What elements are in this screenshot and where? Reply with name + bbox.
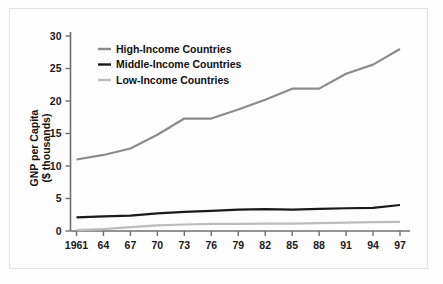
plot-area: GNP per Capita ($ thousands) 05101520253… [0, 0, 443, 284]
series-line [77, 222, 401, 230]
x-tick-label: 1961 [65, 239, 89, 251]
y-axis-title: GNP per Capita ($ thousands) [28, 109, 52, 186]
x-tick-label: 82 [259, 239, 271, 251]
y-axis-title-line1: GNP per Capita [28, 109, 40, 186]
y-tick-label: 10 [50, 160, 62, 172]
y-tick-label: 0 [56, 225, 62, 237]
y-tick-label: 15 [50, 127, 62, 139]
x-tick-label: 70 [152, 239, 164, 251]
line-chart-svg: GNP per Capita ($ thousands) 05101520253… [0, 0, 443, 284]
x-tick-label: 88 [313, 239, 325, 251]
x-axis-ticks: 1961646770737679828588919497 [65, 231, 406, 251]
legend-label: Middle-Income Countries [116, 58, 242, 70]
x-tick-label: 76 [205, 239, 217, 251]
series-line [77, 205, 401, 217]
y-tick-label: 25 [50, 62, 62, 74]
y-tick-label: 5 [56, 192, 62, 204]
y-axis-ticks: 051015202530 [50, 30, 71, 237]
x-tick-label: 79 [232, 239, 244, 251]
legend-label: Low-Income Countries [116, 74, 229, 86]
x-tick-label: 73 [178, 239, 190, 251]
x-tick-label: 94 [367, 239, 379, 251]
chart-legend: High-Income CountriesMiddle-Income Count… [98, 43, 242, 86]
x-tick-label: 91 [340, 239, 352, 251]
x-tick-label: 97 [394, 239, 406, 251]
legend-label: High-Income Countries [116, 43, 232, 55]
x-tick-label: 85 [286, 239, 298, 251]
x-tick-label: 67 [125, 239, 137, 251]
y-axis-title-line2: ($ thousands) [40, 114, 52, 183]
y-tick-label: 30 [50, 30, 62, 42]
x-tick-label: 64 [98, 239, 110, 251]
y-tick-label: 20 [50, 95, 62, 107]
chart-figure: GNP per Capita ($ thousands) 05101520253… [0, 0, 443, 284]
